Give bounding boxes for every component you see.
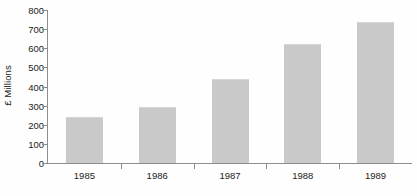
x-tick-label: 1985 [74, 170, 95, 181]
x-tick-mark [194, 164, 195, 169]
y-axis-title-label: £ Millions [2, 65, 13, 106]
y-tick-mark [42, 10, 47, 11]
y-axis-tick-labels: 0100200300400500600700800 [14, 0, 46, 175]
bar [212, 79, 249, 163]
x-axis-line [47, 163, 412, 164]
y-tick-mark [42, 48, 47, 49]
bar [66, 117, 103, 163]
bar [139, 107, 176, 163]
x-tick-label: 1987 [219, 170, 240, 181]
y-tick-mark [42, 106, 47, 107]
x-tick-mark [266, 164, 267, 169]
plot-area [48, 10, 412, 163]
x-tick-label: 1989 [365, 170, 386, 181]
bar [357, 22, 394, 163]
y-tick-mark [42, 125, 47, 126]
y-tick-mark [42, 87, 47, 88]
x-tick-mark [121, 164, 122, 169]
y-tick-mark [42, 144, 47, 145]
x-tick-label: 1988 [292, 170, 313, 181]
bar [284, 44, 321, 163]
y-axis-title: £ Millions [0, 0, 14, 170]
y-tick-mark [42, 163, 47, 164]
x-tick-mark [339, 164, 340, 169]
y-tick-mark [42, 67, 47, 68]
x-tick-label: 1986 [147, 170, 168, 181]
y-tick-mark [42, 29, 47, 30]
x-axis-tick-labels: 19851986198719881989 [48, 170, 412, 186]
bar-chart: £ Millions 0100200300400500600700800 198… [0, 0, 417, 196]
